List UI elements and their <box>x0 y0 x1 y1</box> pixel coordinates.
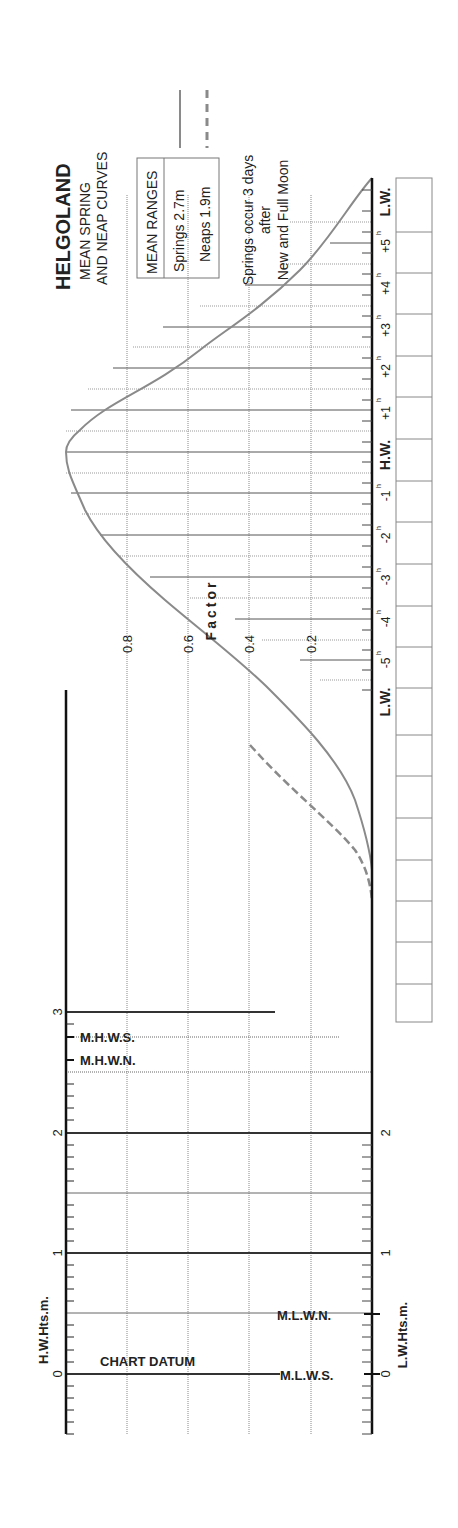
hw-height-tick-3: 3 <box>50 1008 65 1015</box>
mlws-label: M.L.W.S. <box>280 1368 333 1383</box>
time-label-m5: -5 <box>379 657 393 668</box>
factor-tick-0.4: 0.4 <box>242 635 257 653</box>
svg-text:h: h <box>375 651 382 655</box>
svg-text:h: h <box>375 273 382 277</box>
springs-curve <box>66 178 372 870</box>
time-label-m2: -2 <box>379 532 393 543</box>
hw-height-tick-1: 1 <box>50 1249 65 1256</box>
time-label-p5: +5 <box>379 239 393 253</box>
svg-text:h: h <box>375 610 382 614</box>
note-line3: New and Full Moon <box>275 160 291 281</box>
mhwn-label: M.H.W.N. <box>80 1053 136 1068</box>
hw-height-axis-label: H.W.Hts.m. <box>36 1296 51 1364</box>
legend-springs-label: Springs 2.7m <box>171 190 187 272</box>
time-label-m3: -3 <box>379 574 393 585</box>
time-label-p2: +2 <box>379 364 393 378</box>
half-hour-lines <box>66 222 372 680</box>
legend-neaps-label: Neaps 1.9m <box>197 187 213 262</box>
height-gridlines <box>66 1037 372 1313</box>
chart-datum-label: CHART DATUM <box>100 1354 195 1369</box>
time-label-lw-end: L.W. <box>377 188 393 217</box>
mhws-label: M.H.W.S. <box>80 1030 135 1045</box>
tidal-curve-chart: HELGOLAND MEAN SPRING AND NEAP CURVES ME… <box>0 0 458 1528</box>
lw-height-axis-label: L.W.Hts.m. <box>395 1302 410 1368</box>
svg-text:h: h <box>375 356 382 360</box>
hw-height-tick-2: 2 <box>50 1129 65 1136</box>
svg-text:h: h <box>375 526 382 530</box>
svg-text:h: h <box>375 568 382 572</box>
time-axis-ticks <box>362 190 372 1434</box>
note-line1: Springs occur 3 days <box>240 155 256 286</box>
svg-text:h: h <box>375 315 382 319</box>
factor-tick-0.6: 0.6 <box>181 635 196 653</box>
svg-text:h: h <box>375 231 382 235</box>
svg-text:h: h <box>375 398 382 402</box>
level-markers <box>66 1037 380 1374</box>
mlwn-label: M.L.W.N. <box>277 1308 331 1323</box>
chart-title: HELGOLAND <box>52 163 74 290</box>
factor-tick-0.2: 0.2 <box>304 635 319 653</box>
neaps-curve <box>250 745 372 900</box>
lw-height-tick-2: 2 <box>378 1129 393 1136</box>
factor-tick-0.8: 0.8 <box>120 635 135 653</box>
time-label-m4: -4 <box>379 616 393 627</box>
lw-height-tick-0: 0 <box>378 1370 393 1377</box>
time-label-m1: -1 <box>379 490 393 501</box>
chart-subtitle-line1: MEAN SPRING <box>77 182 93 280</box>
time-table-box <box>396 178 432 1022</box>
time-label-hw: H.W. <box>377 440 393 470</box>
hw-height-tick-0: 0 <box>50 1370 65 1377</box>
svg-text:h: h <box>375 484 382 488</box>
legend-header: MEAN RANGES <box>144 171 160 274</box>
time-label-p3: +3 <box>379 323 393 337</box>
note-line2: after <box>257 206 273 234</box>
chart-subtitle-line2: AND NEAP CURVES <box>94 152 110 285</box>
lw-height-tick-1: 1 <box>378 1249 393 1256</box>
time-label-p1: +1 <box>379 406 393 420</box>
factor-label: Factor <box>203 580 219 641</box>
time-label-lw-start: L.W. <box>377 688 393 717</box>
time-label-p4: +4 <box>379 281 393 295</box>
